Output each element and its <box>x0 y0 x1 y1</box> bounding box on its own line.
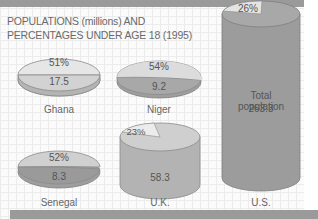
senegal-pct: 52% <box>39 152 79 163</box>
us-pop: 263.3 <box>226 103 296 114</box>
chart-frame: POPULATIONS (millions) AND PERCENTAGES U… <box>0 0 318 219</box>
us-label: U.S. <box>241 197 281 208</box>
uk-pct: 23% <box>121 126 151 137</box>
uk-pop: 58.3 <box>140 172 180 183</box>
senegal-pop: 8.3 <box>39 171 79 182</box>
ghana-pop: 17.5 <box>39 76 79 87</box>
uk-label: U.K. <box>140 197 180 208</box>
niger-label: Niger <box>129 104 189 115</box>
ghana-pct: 51% <box>39 57 79 68</box>
us-pct: 26% <box>228 3 268 14</box>
ghana-label: Ghana <box>29 104 89 115</box>
senegal-label: Senegal <box>24 197 94 208</box>
niger-pct: 54% <box>139 61 179 72</box>
niger-pop: 9.2 <box>139 81 179 92</box>
